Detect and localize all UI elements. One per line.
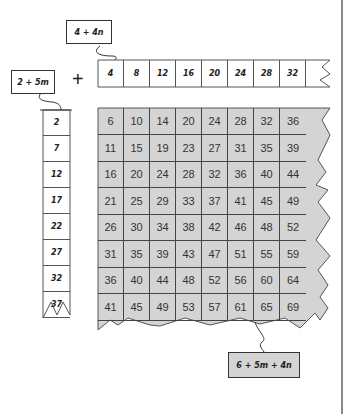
grid-cell: 49: [280, 188, 306, 215]
grid-cell: 64: [280, 267, 306, 294]
top-row-cell: 24: [228, 60, 254, 87]
grid-cell: 30: [124, 214, 150, 241]
grid-cell: 11: [98, 135, 124, 162]
grid-cell: 39: [280, 135, 306, 162]
grid-cell: 56: [228, 267, 254, 294]
grid-cell: 40: [254, 161, 280, 188]
grid-cell: 19: [150, 135, 176, 162]
top-row-cell: 4: [98, 60, 124, 87]
grid-cell: 46: [228, 214, 254, 241]
left-column-cell: 12: [43, 162, 70, 188]
grid-cell: 38: [176, 214, 202, 241]
left-column-cell: 2: [43, 110, 70, 136]
grid-cell: 29: [150, 188, 176, 215]
top-row-cell: 28: [254, 60, 280, 87]
grid-cell: 6: [98, 108, 124, 135]
grid-cell: 36: [228, 161, 254, 188]
grid-cell: 41: [228, 188, 254, 215]
grid-cell: 45: [254, 188, 280, 215]
grid-cell: 42: [202, 214, 228, 241]
grid-cell: 55: [254, 241, 280, 268]
left-column-cell: 32: [43, 266, 70, 292]
top-row-cell: 32: [280, 60, 306, 87]
grid-cell: 40: [124, 267, 150, 294]
grid-cell: 61: [228, 294, 254, 321]
grid-cell: 10: [124, 108, 150, 135]
grid-cell: 32: [202, 161, 228, 188]
left-expression-label: 2 + 5m: [11, 70, 55, 94]
grid-cell: 44: [280, 161, 306, 188]
grid-cell: 47: [202, 241, 228, 268]
grid-cell: 24: [202, 108, 228, 135]
grid-cell: 16: [98, 161, 124, 188]
grid-cell: 20: [176, 108, 202, 135]
left-column-cell: 17: [43, 188, 70, 214]
grid-cell: 36: [280, 108, 306, 135]
grid-cell: 49: [150, 294, 176, 321]
top-row-cell: 20: [202, 60, 228, 87]
grid-cell: 21: [98, 188, 124, 215]
left-column-cell: 7: [43, 136, 70, 162]
grid-cell: 37: [202, 188, 228, 215]
grid-cell: 57: [202, 294, 228, 321]
grid-cell: 51: [228, 241, 254, 268]
grid-cell: 60: [254, 267, 280, 294]
grid-cell: 20: [124, 161, 150, 188]
grid-cell: 15: [124, 135, 150, 162]
grid-cell: 31: [98, 241, 124, 268]
top-row-cell: 16: [176, 60, 202, 87]
grid-cell: 41: [98, 294, 124, 321]
grid-cell: 52: [202, 267, 228, 294]
left-column-cell: 22: [43, 214, 70, 240]
grid-cell: 34: [150, 214, 176, 241]
grid-cell: 24: [150, 161, 176, 188]
grid-cell: 33: [176, 188, 202, 215]
grid-cell: 28: [176, 161, 202, 188]
result-expression-label: 6 + 5m + 4n: [228, 352, 300, 378]
grid-cell: 65: [254, 294, 280, 321]
top-row-cell: 8: [124, 60, 150, 87]
grid-cell: 53: [176, 294, 202, 321]
grid-cell: 31: [228, 135, 254, 162]
grid-cell: 28: [228, 108, 254, 135]
grid-cell: 35: [124, 241, 150, 268]
grid-cell: 59: [280, 241, 306, 268]
grid-cell: 23: [176, 135, 202, 162]
grid-cell: 44: [150, 267, 176, 294]
grid-cell: 52: [280, 214, 306, 241]
left-column-cell: 27: [43, 240, 70, 266]
grid-cell: 26: [98, 214, 124, 241]
grid-cell: 32: [254, 108, 280, 135]
grid-cell: 43: [176, 241, 202, 268]
top-row-cell: 12: [150, 60, 176, 87]
grid-cell: 45: [124, 294, 150, 321]
plus-sign: +: [72, 68, 84, 91]
grid-cell: 48: [254, 214, 280, 241]
grid-cell: 69: [280, 294, 306, 321]
grid-cell: 25: [124, 188, 150, 215]
grid-cell: 27: [202, 135, 228, 162]
grid-cell: 14: [150, 108, 176, 135]
grid-cell: 35: [254, 135, 280, 162]
grid-cell: 48: [176, 267, 202, 294]
top-expression-label: 4 + 4n: [66, 20, 112, 44]
grid-cell: 36: [98, 267, 124, 294]
grid-cell: 39: [150, 241, 176, 268]
left-column-cell: 37: [43, 292, 70, 318]
